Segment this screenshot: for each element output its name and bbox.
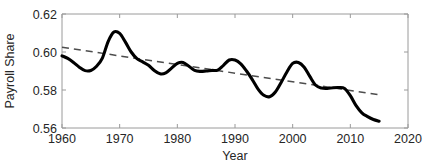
x-tick-label: 1980: [163, 132, 191, 146]
y-axis-title: Payroll Share: [3, 33, 17, 108]
x-tick-label: 1970: [106, 132, 134, 146]
y-tick-label: 0.58: [33, 84, 57, 98]
payroll-share-line-chart: 1960197019801990200020102020 0.620.600.5…: [0, 0, 441, 165]
y-axis-tick-labels: 0.620.600.580.56: [33, 8, 57, 136]
x-axis-tick-labels: 1960197019801990200020102020: [48, 132, 422, 146]
x-tick-label: 1990: [221, 132, 249, 146]
x-tick-label: 2020: [394, 132, 422, 146]
y-tick-label: 0.62: [33, 8, 57, 22]
series-payroll-share: [62, 31, 379, 121]
x-tick-label: 2010: [336, 132, 364, 146]
y-tick-label: 0.60: [33, 46, 57, 60]
x-axis-title: Year: [222, 149, 247, 163]
x-tick-label: 2000: [279, 132, 307, 146]
chart-figure: 1960197019801990200020102020 0.620.600.5…: [0, 0, 441, 165]
y-tick-label: 0.56: [33, 122, 57, 136]
